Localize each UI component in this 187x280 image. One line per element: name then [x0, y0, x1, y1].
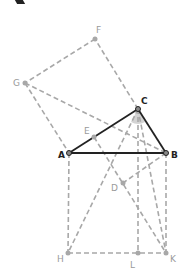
point-b — [164, 151, 169, 156]
point-g — [23, 81, 28, 86]
segment-ek — [94, 137, 166, 253]
segment-cf — [95, 39, 138, 109]
label-k: K — [170, 254, 176, 264]
segment-bd — [123, 153, 166, 183]
point-c — [136, 107, 141, 112]
point-f — [93, 37, 98, 42]
point-l — [136, 251, 141, 256]
segment-fg — [25, 39, 95, 83]
point-e — [92, 135, 97, 140]
point-d — [121, 181, 126, 186]
label-d: D — [111, 183, 118, 193]
label-e: E — [84, 126, 90, 136]
label-a: A — [58, 150, 65, 160]
label-h: H — [57, 254, 64, 264]
segment-bc — [138, 109, 166, 153]
segment-ah — [68, 153, 69, 253]
point-k — [164, 251, 169, 256]
label-l: L — [130, 260, 135, 270]
point-h — [66, 251, 71, 256]
point-a — [67, 151, 72, 156]
label-g: G — [13, 78, 20, 88]
label-f: F — [96, 25, 101, 35]
label-c: C — [141, 96, 148, 106]
label-b: B — [171, 150, 178, 160]
geometry-diagram — [0, 0, 187, 280]
